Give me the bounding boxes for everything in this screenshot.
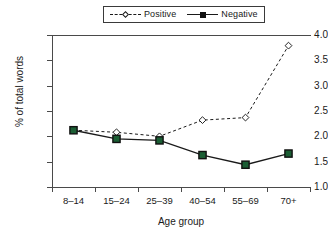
y-tick-mark [47, 111, 52, 112]
legend-entry-negative: Negative [187, 10, 257, 19]
legend-label-negative: Negative [221, 10, 257, 19]
y-axis-label: % of total words [14, 26, 25, 158]
x-tick-mark [224, 187, 225, 192]
diamond-open-marker-icon [122, 11, 129, 18]
y-tick-label: 2.5 [284, 106, 328, 116]
y-tick-mark [47, 60, 52, 61]
x-tick-mark [95, 187, 96, 192]
y-tick-mark [47, 35, 52, 36]
x-tick-mark [181, 187, 182, 192]
y-tick-label: 1.5 [284, 157, 328, 167]
legend-key-positive-icon [110, 10, 141, 19]
x-tick-mark [52, 187, 53, 192]
x-axis-label: Age group [52, 216, 310, 227]
legend-label-positive: Positive [144, 10, 176, 19]
y-tick-mark [47, 162, 52, 163]
y-tick-label: 3.5 [284, 55, 328, 65]
plot-area [52, 35, 311, 188]
y-tick-mark [47, 136, 52, 137]
y-tick-label: 3.0 [284, 81, 328, 91]
y-tick-label: 1.0 [284, 182, 328, 192]
y-tick-mark [47, 86, 52, 87]
square-filled-marker-icon [200, 12, 206, 18]
legend-entry-positive: Positive [110, 10, 176, 19]
legend-key-negative-icon [187, 10, 218, 19]
y-tick-label: 2.0 [284, 131, 328, 141]
x-tick-mark [138, 187, 139, 192]
x-tick-mark [267, 187, 268, 192]
y-tick-label: 4.0 [284, 30, 328, 40]
chart-legend: Positive Negative [103, 6, 265, 23]
chart-figure: Positive Negative % of total words 4.03.… [0, 0, 328, 241]
x-tick-label: 70+ [259, 196, 319, 206]
x-tick-mark [310, 187, 311, 192]
